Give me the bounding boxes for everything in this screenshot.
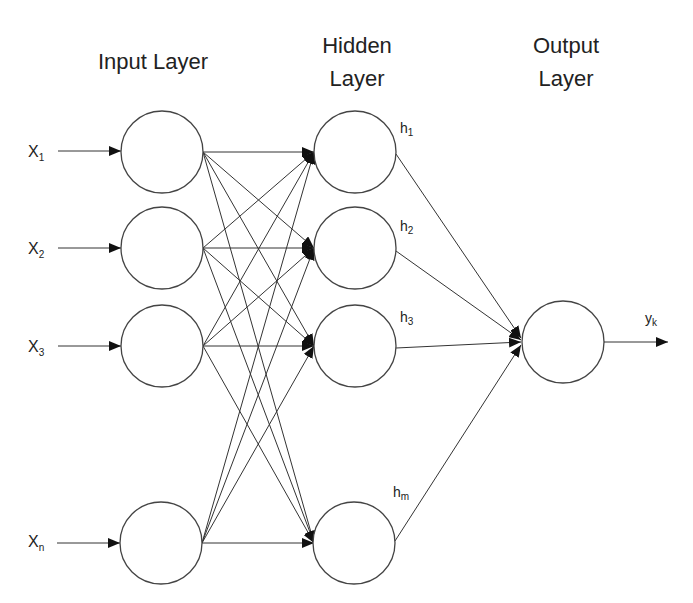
hidden-label-hm: hm — [393, 484, 409, 502]
input-label-x2: X2 — [28, 240, 45, 260]
svg-text:yk: yk — [645, 310, 658, 328]
input-node-n — [120, 502, 202, 584]
input-label-xn: Xn — [28, 533, 44, 553]
hidden-label-h3: h3 — [400, 309, 414, 327]
svg-text:hm: hm — [393, 484, 409, 502]
hidden-layer-title-line1: Hidden — [322, 33, 392, 58]
input-arrows — [57, 151, 121, 543]
svg-text:h2: h2 — [400, 218, 414, 236]
input-hidden-edges — [202, 152, 314, 543]
hidden-node-m — [313, 502, 395, 584]
svg-text:Xn: Xn — [28, 533, 44, 553]
hidden-label-h2: h2 — [400, 218, 414, 236]
hidden-node-3 — [314, 305, 396, 387]
svg-text:h1: h1 — [400, 120, 414, 138]
svg-text:X1: X1 — [28, 143, 45, 163]
output-layer-title-line2: Layer — [538, 66, 593, 91]
input-node-3 — [121, 305, 203, 387]
hidden-layer-title-line2: Layer — [329, 66, 384, 91]
input-node-2 — [121, 207, 203, 289]
svg-text:X2: X2 — [28, 240, 45, 260]
input-layer-title: Input Layer — [98, 49, 208, 74]
hidden-node-2 — [314, 207, 396, 289]
svg-text:X3: X3 — [28, 338, 45, 358]
output-node — [522, 301, 604, 383]
neural-network-diagram: Input Layer Hidden Layer Output Layer — [0, 0, 693, 603]
hidden-node-1 — [314, 111, 396, 193]
input-label-x1: X1 — [28, 143, 45, 163]
input-label-x3: X3 — [28, 338, 45, 358]
hidden-label-h1: h1 — [400, 120, 414, 138]
output-layer-title-line1: Output — [533, 33, 599, 58]
svg-text:h3: h3 — [400, 309, 414, 327]
output-label-yk: yk — [645, 310, 658, 328]
hidden-output-edges — [395, 154, 521, 541]
input-node-1 — [121, 111, 203, 193]
